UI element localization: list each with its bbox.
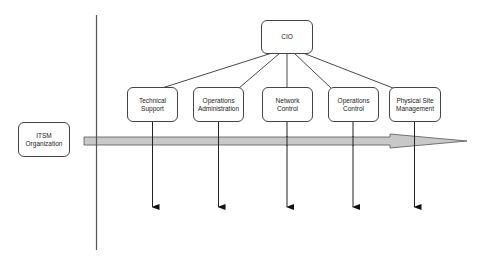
node-cio-label: CIO — [281, 33, 293, 41]
node-operations-control: Operations Control — [328, 87, 379, 122]
node-itsm-organization-label: ITSM Organization — [26, 132, 63, 148]
node-operations-administration: Operations Administration — [193, 87, 244, 122]
node-technical-support: Technical Support — [127, 87, 178, 122]
node-cio: CIO — [261, 20, 313, 54]
node-itsm-organization: ITSM Organization — [18, 122, 70, 157]
node-physical-site-management-label: Physical Site Management — [396, 97, 434, 113]
node-physical-site-management: Physical Site Management — [389, 87, 441, 122]
drop-arrows — [153, 121, 415, 207]
org-connectors — [162, 53, 393, 88]
diagram-canvas — [0, 0, 489, 268]
node-operations-administration-label: Operations Administration — [198, 97, 239, 113]
node-network-control: Network Control — [262, 87, 313, 122]
node-technical-support-label: Technical Support — [139, 97, 166, 113]
node-network-control-label: Network Control — [276, 97, 300, 113]
flow-arrow — [84, 134, 467, 148]
node-operations-control-label: Operations Control — [338, 97, 370, 113]
